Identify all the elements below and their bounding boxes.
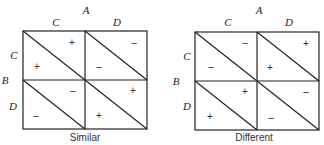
row-label-d: D bbox=[183, 101, 191, 112]
cell-cc-upper-sign: – bbox=[242, 38, 248, 48]
side-factor-label: B bbox=[173, 76, 180, 87]
caption-different: Different bbox=[235, 133, 273, 143]
diagram-different: A C D B C D – – + + + + – – Different bbox=[0, 0, 324, 145]
cell-cd-upper-sign: + bbox=[303, 39, 309, 49]
cell-cc-lower-sign: – bbox=[208, 62, 214, 72]
cell-dd-upper-sign: – bbox=[303, 87, 309, 97]
column-label-c: C bbox=[224, 17, 231, 28]
row-label-c: C bbox=[183, 51, 190, 62]
cell-dc-upper-sign: + bbox=[242, 87, 248, 97]
cell-dc-lower-sign: + bbox=[207, 112, 213, 122]
column-label-d: D bbox=[285, 17, 293, 28]
grid-lines bbox=[0, 0, 324, 145]
cell-cd-lower-sign: + bbox=[267, 63, 273, 73]
top-factor-label: A bbox=[256, 5, 263, 16]
cell-dd-lower-sign: – bbox=[268, 113, 274, 123]
